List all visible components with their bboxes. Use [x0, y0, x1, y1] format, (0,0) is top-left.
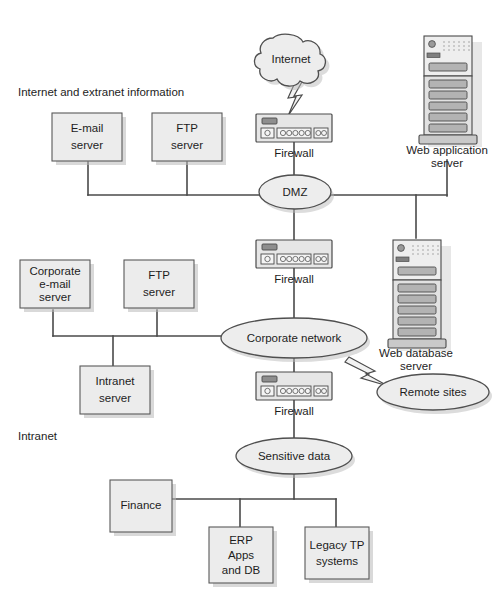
node-remote-sites[interactable]: Remote sites	[377, 374, 492, 414]
erp-apps-and-db-label-line1: ERP	[229, 534, 253, 546]
intranet-server-label-line1: Intranet	[96, 375, 136, 387]
node-sensitive-data[interactable]: Sensitive data	[236, 438, 355, 478]
legacy-tp-systems-label-line1: Legacy TP	[310, 539, 365, 551]
node-email-server[interactable]: E-mail server	[52, 113, 126, 165]
link-corpnet-remote-lightning	[345, 357, 388, 386]
node-corporate-email-server[interactable]: Corporate e-mail server	[20, 260, 94, 312]
node-firewall-bottom[interactable]: Firewall	[256, 372, 332, 417]
ftp-server-intranet-label-line2: server	[143, 286, 175, 298]
node-legacy-tp-systems[interactable]: Legacy TP systems	[305, 527, 373, 583]
web-application-server-label-line2: server	[431, 157, 463, 169]
legacy-tp-systems-label-line2: systems	[316, 555, 358, 567]
ftp-server-intranet-label-line1: FTP	[148, 269, 170, 281]
web-database-server-label-line1: Web database	[379, 347, 453, 359]
corporate-email-server-label-line2: e-mail	[39, 278, 70, 290]
node-web-application-server[interactable]: Web application server	[406, 36, 488, 169]
node-ftp-server-dmz[interactable]: FTP server	[152, 113, 226, 165]
node-erp-apps-and-db[interactable]: ERP Apps and DB	[209, 527, 277, 587]
erp-apps-and-db-label-line3: and DB	[222, 564, 261, 576]
node-dmz[interactable]: DMZ	[259, 175, 334, 213]
network-diagram-svg: Internet Firewall Web application server…	[0, 0, 500, 592]
dmz-label: DMZ	[283, 186, 308, 198]
zone-label-internet-extranet: Internet and extranet information	[18, 86, 184, 98]
intranet-server-label-line2: server	[99, 392, 131, 404]
corporate-network-label: Corporate network	[247, 332, 342, 344]
node-firewall-middle[interactable]: Firewall	[256, 240, 332, 285]
ftp-server-dmz-label-line1: FTP	[176, 122, 198, 134]
zone-label-intranet: Intranet	[18, 430, 58, 442]
node-ftp-server-intranet[interactable]: FTP server	[124, 260, 198, 312]
firewall-top-label: Firewall	[274, 147, 314, 159]
node-internet-cloud[interactable]: Internet	[254, 34, 329, 90]
email-server-label-line2: server	[71, 139, 103, 151]
corporate-email-server-label-line1: Corporate	[29, 265, 80, 277]
ftp-server-dmz-label-line2: server	[171, 139, 203, 151]
firewall-bottom-label: Firewall	[274, 405, 314, 417]
finance-label: Finance	[121, 499, 162, 511]
node-intranet-server[interactable]: Intranet server	[80, 366, 154, 418]
erp-apps-and-db-label-line2: Apps	[228, 549, 254, 561]
corporate-email-server-label-line3: server	[39, 291, 71, 303]
node-web-database-server[interactable]: Web database server	[379, 240, 453, 372]
remote-sites-label: Remote sites	[399, 386, 466, 398]
network-diagram-canvas: Internet Firewall Web application server…	[0, 0, 500, 592]
firewall-middle-label: Firewall	[274, 273, 314, 285]
web-database-server-label-line2: server	[400, 360, 432, 372]
sensitive-data-label: Sensitive data	[258, 450, 331, 462]
node-firewall-top[interactable]: Firewall	[256, 114, 332, 159]
internet-label: Internet	[272, 53, 312, 65]
email-server-label-line1: E-mail	[71, 122, 104, 134]
node-corporate-network[interactable]: Corporate network	[221, 318, 370, 362]
node-finance[interactable]: Finance	[110, 480, 176, 536]
web-application-server-label-line1: Web application	[406, 144, 488, 156]
